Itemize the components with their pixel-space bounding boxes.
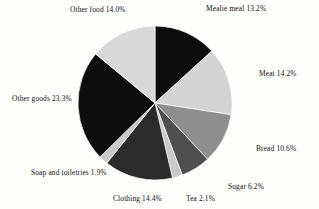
slice-label-meat: Meat 14.2% [259,70,297,77]
slice-label-other-food: Other food 14.0% [70,6,126,13]
slice-label-clothing: Clothing 14.4% [113,195,162,202]
slice-label-mealie-meal: Mealie meal 13.2% [206,5,266,12]
slice-label-bread: Bread 10.6% [256,145,296,152]
slice-label-sugar: Sugar 6.2% [228,183,264,190]
slice-label-other-goods: Other goods 23.3% [12,95,72,102]
slice-label-soap-and-toiletries: Soap and toiletries 1.9% [31,169,107,176]
pie-slice-group [78,26,232,180]
pie-chart-figure: Mealie meal 13.2% Meat 14.2% Bread 10.6%… [0,0,319,209]
pie-chart-canvas [0,0,319,209]
slice-label-tea: Tea 2.1% [186,195,215,202]
